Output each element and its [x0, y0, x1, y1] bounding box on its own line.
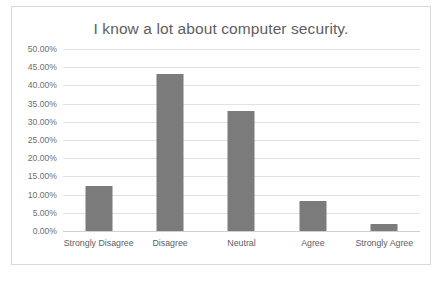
bar-group: Neutral — [206, 49, 277, 231]
bar[interactable] — [85, 186, 112, 231]
bar[interactable] — [228, 111, 255, 231]
y-axis-tick-label: 50.00% — [28, 44, 57, 54]
chart-frame: I know a lot about computer security. 50… — [11, 6, 431, 265]
y-axis-tick-label: 35.00% — [28, 99, 57, 109]
bar[interactable] — [299, 201, 326, 231]
y-axis-tick-label: 10.00% — [28, 190, 57, 200]
bar[interactable] — [157, 74, 184, 231]
y-axis-tick-label: 25.00% — [28, 135, 57, 145]
y-axis-tick-label: 5.00% — [33, 208, 57, 218]
y-axis-tick-label: 40.00% — [28, 80, 57, 90]
x-axis-category-label: Agree — [277, 238, 349, 250]
y-axis-tick-label: 0.00% — [33, 226, 57, 236]
bar-group: Strongly Agree — [349, 49, 420, 231]
bar-group: Agree — [277, 49, 348, 231]
x-axis-category-label: Neutral — [205, 238, 277, 250]
x-axis-category-label: Strongly Agree — [348, 238, 420, 250]
bar[interactable] — [371, 224, 398, 231]
y-axis-tick-label: 15.00% — [28, 171, 57, 181]
x-axis-category-label: Disagree — [134, 238, 206, 250]
chart-title: I know a lot about computer security. — [12, 20, 430, 38]
x-axis-category-label: Strongly Disagree — [63, 238, 135, 250]
y-axis-tick-label: 45.00% — [28, 62, 57, 72]
plot-area: 50.00%45.00%40.00%35.00%30.00%25.00%20.0… — [63, 49, 420, 231]
y-axis-tick-label: 30.00% — [28, 117, 57, 127]
bar-group: Disagree — [134, 49, 205, 231]
bar-series: Strongly DisagreeDisagreeNeutralAgreeStr… — [63, 49, 420, 231]
bar-group: Strongly Disagree — [63, 49, 134, 231]
gridline — [63, 231, 420, 232]
y-axis-tick-label: 20.00% — [28, 153, 57, 163]
